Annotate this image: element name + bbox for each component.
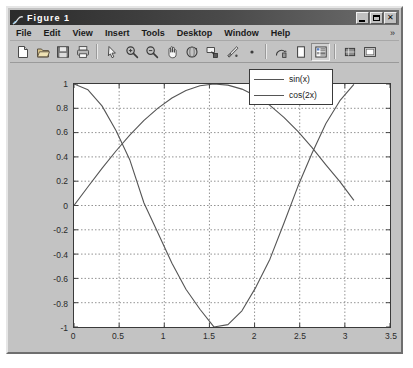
x-tick-label: 2 [241,331,267,341]
x-tick-label: 2.5 [287,331,313,341]
zoom-out-icon[interactable] [142,43,161,61]
legend-entry-cos: cos(2x) [250,88,332,102]
y-tick-label: -0.4 [38,250,68,260]
x-tick-label: 0 [60,331,86,341]
menu-item-insert[interactable]: Insert [99,27,136,39]
y-tick-label: -0.8 [38,299,68,309]
legend-label-cos: cos(2x) [289,90,317,100]
menu-item-window[interactable]: Window [218,27,264,39]
toolbar-separator-3 [334,44,336,59]
window-titlebar[interactable]: Figure 1 ✕ [10,10,399,25]
close-button[interactable]: ✕ [384,12,397,24]
x-tick-label: 3.5 [378,331,399,341]
link-data-dot-icon[interactable] [242,43,261,61]
figure-palette-icon[interactable] [340,43,359,61]
y-tick-label: 0 [38,201,68,211]
x-tick-label: 0.5 [105,331,131,341]
menu-item-view[interactable]: View [67,27,99,39]
window-title: Figure 1 [27,13,70,23]
legend-label-sin: sin(x) [289,74,310,84]
y-tick-label: 1 [38,79,68,89]
y-tick-label: 0.6 [38,127,68,137]
matlab-figure-icon [12,12,24,23]
insert-colorbar-icon[interactable] [271,43,290,61]
menu-item-help[interactable]: Help [265,27,297,39]
y-tick-label: 0.4 [38,152,68,162]
y-tick-label: -0.2 [38,225,68,235]
figure-window: Figure 1 ✕ File Edit View Insert Tools D… [6,6,403,354]
zoom-in-icon[interactable] [122,43,141,61]
x-tick-label: 1 [150,331,176,341]
menu-item-tools[interactable]: Tools [135,27,170,39]
pan-hand-icon[interactable] [162,43,181,61]
toolbar-separator-2 [265,44,267,59]
menu-item-desktop[interactable]: Desktop [171,27,219,39]
x-tick-label: 3 [332,331,358,341]
plot-drawing-area [74,84,390,327]
plot-browser-icon[interactable] [311,43,330,61]
menu-item-edit[interactable]: Edit [38,27,67,39]
legend-line-sin [254,79,284,80]
legend-line-cos [254,95,284,96]
minimize-button[interactable] [356,12,369,24]
print-figure-icon[interactable] [73,43,92,61]
rotate-3d-icon[interactable] [182,43,201,61]
y-tick-label: -0.6 [38,274,68,284]
menu-overflow-chevron[interactable]: » [390,28,395,38]
figure-canvas[interactable]: 1 0.8 0.6 0.4 0.2 0 -0.2 -0.4 -0.6 -0.8 … [10,63,399,352]
window-controls: ✕ [356,12,397,24]
new-figure-icon[interactable] [13,43,32,61]
brush-icon[interactable] [222,43,241,61]
y-tick-label: 0.2 [38,176,68,186]
x-tick-label: 1.5 [196,331,222,341]
property-editor-icon[interactable] [360,43,379,61]
legend-entry-sin: sin(x) [250,72,332,86]
toolbar [10,41,399,63]
y-tick-label: 0.8 [38,103,68,113]
save-figure-icon[interactable] [53,43,72,61]
maximize-button[interactable] [370,12,383,24]
menubar: File Edit View Insert Tools Desktop Wind… [10,25,399,41]
data-cursor-icon[interactable] [202,43,221,61]
insert-legend-icon[interactable] [291,43,310,61]
menu-item-file[interactable]: File [10,27,38,39]
plot-axes[interactable] [73,83,391,328]
plot-legend[interactable]: sin(x) cos(2x) [249,69,333,105]
toolbar-separator-1 [96,44,98,59]
open-file-icon[interactable] [33,43,52,61]
edit-plot-arrow-icon[interactable] [102,43,121,61]
